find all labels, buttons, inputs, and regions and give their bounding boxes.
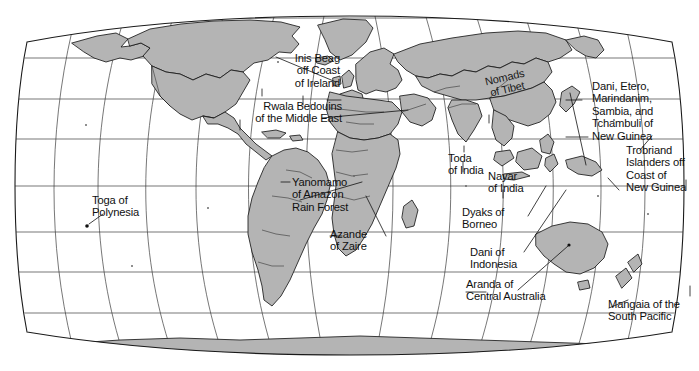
- label-rwala-bedouins[interactable]: Rwala Bedouins of the Middle East: [222, 100, 342, 125]
- label-aranda-central-australia[interactable]: Aranda of Central Australia: [466, 278, 566, 303]
- leader-new-guinea: [570, 93, 586, 165]
- label-yanomamo-amazon[interactable]: Yanomamo of Amazon Rain Forest: [292, 176, 362, 213]
- label-dyaks-of-borneo[interactable]: Dyaks of Borneo: [462, 206, 526, 231]
- label-dani-of-indonesia[interactable]: Dani of Indonesia: [470, 246, 534, 271]
- leader-trobriand2: [608, 178, 619, 190]
- leader-dani-indo: [524, 190, 566, 252]
- label-azande-of-zaire[interactable]: Azande of Zaire: [330, 228, 386, 253]
- label-mangaia-south-pacific[interactable]: Mangaia of the South Pacific: [608, 298, 699, 323]
- dot-aranda: [567, 243, 570, 246]
- label-nayar-of-india[interactable]: Nayar of India: [488, 170, 542, 195]
- label-new-guinea-cultures[interactable]: Dani, Etero, Marindanim, Sambia, and Tch…: [592, 80, 696, 142]
- label-inis-beag[interactable]: Inis Beag off Coast of Ireland: [268, 52, 340, 89]
- dot-toga: [85, 224, 89, 228]
- label-trobriand-islanders[interactable]: Trobriand Islanders off Coast of New Gui…: [626, 144, 699, 194]
- label-toga-of-polynesia[interactable]: Toga of Polynesia: [92, 194, 158, 219]
- world-map: Inis Beag off Coast of Ireland Rwala Bed…: [0, 0, 699, 371]
